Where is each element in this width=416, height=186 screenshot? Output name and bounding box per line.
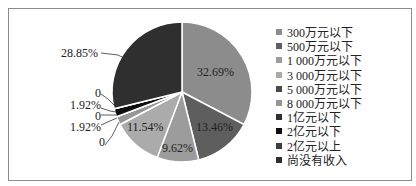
label-1000w-below: 9.62% <box>162 141 193 155</box>
label-300w-below: 32.69% <box>197 65 234 79</box>
legend-swatch <box>276 100 282 106</box>
label-3000w-below: 11.54% <box>127 120 164 134</box>
legend: 300万元以下 500万元以下 1 000万元以下 3 000万元以下 5 00… <box>276 25 362 167</box>
legend-swatch <box>276 86 282 92</box>
label-500w-below: 13.46% <box>196 120 233 134</box>
legend-swatch <box>276 157 282 163</box>
legend-swatch <box>276 128 282 134</box>
label-8000w-below: 1.92% <box>70 120 101 134</box>
legend-item: 尚没有收入 <box>276 153 362 167</box>
legend-swatch <box>276 72 282 78</box>
label-no-revenue: 28.85% <box>61 46 98 60</box>
label-5000w-below: 0 <box>99 135 105 149</box>
legend-swatch <box>276 57 282 63</box>
legend-swatch <box>276 114 282 120</box>
legend-swatch <box>276 143 282 149</box>
legend-swatch <box>276 43 282 49</box>
legend-swatch <box>276 29 282 35</box>
